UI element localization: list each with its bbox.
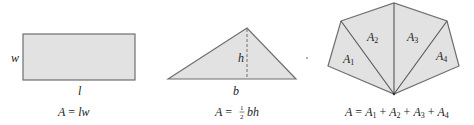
common-vertex [393,93,395,95]
triangle-formula-rhs: bh [247,105,259,119]
rectangle-shape [23,34,135,80]
rectangle-figure: w l A = lw [11,34,135,119]
height-label: h [238,51,244,65]
fraction-denominator: 2 [240,113,244,121]
base-label: b [233,84,239,98]
width-label: w [11,51,19,65]
polygon-figure: A1 A2 A3 A4 A = A1 + A2 + A3 + A4 [328,3,459,120]
triangle-formula: A = 1 2 bh [214,104,259,121]
triangle-shape [168,28,296,79]
triangle-figure: h b A = 1 2 bh [168,28,308,121]
fraction-numerator: 1 [240,104,244,112]
area-formulas-diagram: w l A = lw h b A = 1 2 bh A1 A2 A3 A4 A … [0,0,474,125]
rectangle-formula: A = lw [57,105,89,119]
svg-text:A =: A = [214,105,232,119]
polygon-formula: A = A1 + A2 + A3 + A4 [344,105,449,120]
stray-dot [306,57,308,59]
length-label: l [78,84,82,98]
